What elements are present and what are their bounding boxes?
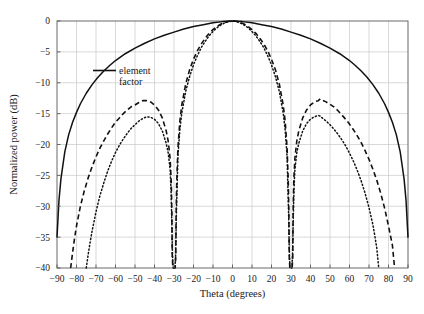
x-tick-label: 70 xyxy=(364,274,374,284)
x-tick-label: −50 xyxy=(128,274,143,284)
x-tick-label: 20 xyxy=(267,274,277,284)
x-tick-label: 90 xyxy=(403,274,413,284)
x-tick-label: −70 xyxy=(89,274,104,284)
y-tick-label: −30 xyxy=(35,202,50,212)
y-tick-label: 0 xyxy=(45,16,50,26)
antenna-pattern-figure: −90−80−70−60−50−40−30−20−100102030405060… xyxy=(0,0,424,314)
x-tick-label: −10 xyxy=(206,274,221,284)
x-tick-label: −40 xyxy=(147,274,162,284)
x-tick-label: −80 xyxy=(69,274,84,284)
x-tick-label: 0 xyxy=(230,274,235,284)
x-tick-label: 80 xyxy=(384,274,394,284)
x-tick-label: 50 xyxy=(325,274,335,284)
x-tick-label: −90 xyxy=(50,274,65,284)
x-tick-label: 10 xyxy=(247,274,257,284)
legend-label-line-1: element xyxy=(119,65,151,76)
chart-canvas: −90−80−70−60−50−40−30−20−100102030405060… xyxy=(0,0,424,314)
y-tick-label: −10 xyxy=(35,78,50,88)
y-tick-label: −35 xyxy=(35,233,50,243)
x-tick-label: −20 xyxy=(186,274,201,284)
y-tick-label: −40 xyxy=(35,263,50,273)
x-tick-label: −30 xyxy=(167,274,182,284)
y-tick-label: −20 xyxy=(35,140,50,150)
legend-label-line-2: factor xyxy=(119,76,143,87)
x-tick-label: 40 xyxy=(306,274,316,284)
y-axis-title: Normalized power (dB) xyxy=(8,94,20,195)
x-tick-label: −60 xyxy=(108,274,123,284)
x-tick-label: 60 xyxy=(345,274,355,284)
x-tick-label: 30 xyxy=(286,274,296,284)
x-axis-title: Theta (degrees) xyxy=(200,288,266,300)
y-tick-label: −15 xyxy=(35,109,50,119)
y-tick-label: −25 xyxy=(35,171,50,181)
y-tick-label: −5 xyxy=(40,47,50,57)
